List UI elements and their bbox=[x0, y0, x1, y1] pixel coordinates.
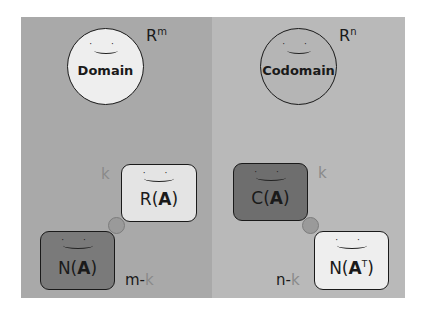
left-null-space-box: · · N(AT) bbox=[314, 231, 389, 290]
row-space-label: R(A) bbox=[122, 189, 196, 209]
codomain-space-label: Rn bbox=[339, 26, 356, 45]
smile-icon bbox=[144, 175, 174, 182]
codomain-circle: · · Codomain bbox=[260, 28, 337, 105]
domain-circle: · · Domain bbox=[67, 28, 144, 105]
orthogonal-connector-icon bbox=[302, 217, 319, 234]
column-space-label: C(A) bbox=[234, 188, 307, 208]
smile-icon bbox=[287, 47, 311, 54]
domain-space-label: Rm bbox=[146, 26, 167, 45]
smile-icon bbox=[63, 242, 93, 249]
row-space-box: · · R(A) bbox=[121, 164, 197, 222]
column-space-box: · · C(A) bbox=[233, 163, 308, 221]
smile-icon bbox=[94, 47, 118, 54]
null-space-label: N(A) bbox=[41, 258, 114, 278]
column-space-dimension: k bbox=[318, 164, 327, 182]
smile-icon bbox=[337, 242, 367, 249]
smile-icon bbox=[256, 174, 286, 181]
row-space-dimension: k bbox=[101, 165, 110, 183]
left-null-space-dimension: n-k bbox=[276, 271, 300, 289]
codomain-label: Codomain bbox=[261, 63, 336, 78]
left-null-space-label: N(AT) bbox=[315, 258, 388, 278]
domain-label: Domain bbox=[68, 63, 143, 78]
null-space-dimension: m-k bbox=[125, 271, 154, 289]
null-space-box: · · N(A) bbox=[40, 231, 115, 290]
